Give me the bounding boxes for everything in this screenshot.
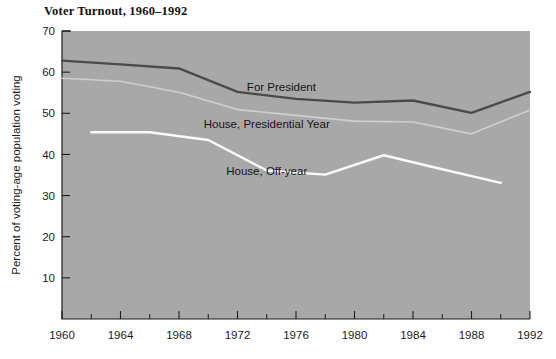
series-annotation-label: House, Presidential Year — [204, 118, 330, 130]
x-tick-label: 1980 — [342, 329, 368, 341]
y-tick-label: 70 — [42, 25, 55, 37]
y-tick-label: 50 — [42, 107, 55, 119]
y-tick-label: 60 — [42, 66, 55, 78]
series-annotation-label: For President — [247, 81, 317, 93]
x-tick-label: 1984 — [400, 329, 426, 341]
y-axis-title: Percent of voting-age population voting — [10, 75, 22, 274]
y-tick-label: 10 — [42, 272, 55, 284]
series-annotation-label: House, Off-year — [226, 165, 307, 177]
x-tick-label: 1972 — [225, 329, 251, 341]
chart-page: Voter Turnout, 1960–1992 10203040506070 … — [0, 0, 556, 359]
x-tick-label: 1976 — [283, 329, 309, 341]
x-tick-label: 1988 — [459, 329, 485, 341]
x-tick-label: 1960 — [49, 329, 75, 341]
y-tick-label: 40 — [42, 149, 55, 161]
voter-turnout-line-chart: 10203040506070 1960196419681972197619801… — [0, 0, 556, 359]
x-tick-label: 1968 — [166, 329, 192, 341]
y-tick-label: 30 — [42, 190, 55, 202]
x-tick-label: 1992 — [517, 329, 543, 341]
x-tick-label: 1964 — [108, 329, 134, 341]
y-tick-label: 20 — [42, 231, 55, 243]
